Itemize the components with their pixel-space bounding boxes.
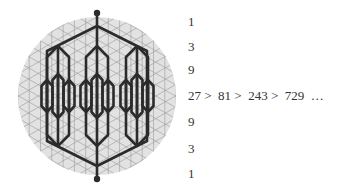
- top-root-node: [94, 10, 100, 16]
- level-label-6: 3: [188, 142, 195, 156]
- level-label-3: 9: [188, 63, 195, 77]
- level-label-2: 3: [188, 40, 195, 54]
- level-label-7: 1: [188, 167, 195, 181]
- ternary-tree-diagram: [0, 0, 200, 192]
- level-label-4-sequence: 27 > 81 > 243 > 729 …: [188, 89, 324, 103]
- bottom-root-node: [94, 176, 100, 182]
- level-label-1: 1: [188, 15, 195, 29]
- level-label-5: 9: [188, 115, 195, 129]
